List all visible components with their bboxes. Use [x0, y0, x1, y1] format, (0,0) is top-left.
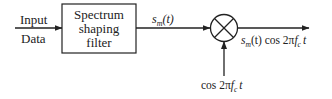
- filter-block-label: Spectrum shaping filter: [62, 4, 136, 53]
- carrier-subscript: c: [234, 85, 237, 94]
- multiplier-icon: [211, 15, 238, 42]
- carrier-pre: cos 2π: [201, 79, 231, 91]
- data-label: Data: [21, 32, 46, 45]
- carrier-label: cos 2πfct: [201, 80, 243, 94]
- output-t: t: [303, 34, 306, 46]
- input-label: Input: [20, 13, 47, 26]
- filter-label-line1: Spectrum: [74, 8, 124, 22]
- filter-label-line2: shaping: [79, 22, 119, 36]
- filter-label-line3: filter: [86, 36, 111, 50]
- output-arg: (t) cos 2π: [251, 34, 295, 46]
- output-f-subscript: c: [298, 40, 301, 49]
- output-signal-label: sm(t) cos 2πfct: [241, 35, 306, 49]
- carrier-t: t: [239, 79, 242, 91]
- filter-output-signal-label: sm(t): [152, 13, 174, 28]
- signal-arg: (t): [162, 12, 173, 26]
